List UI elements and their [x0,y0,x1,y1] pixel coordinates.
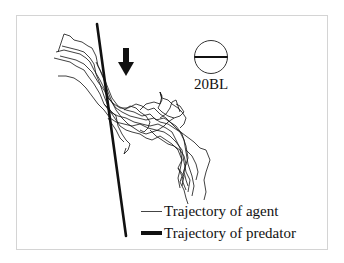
legend-label-predator: Trajectory of predator [164,225,296,242]
circle-with-diameter-icon [195,41,228,74]
arrow-down-icon [118,48,134,76]
scale-bar-label: 20BL [194,76,228,93]
thick-line-icon [141,231,162,235]
legend-label-agent: Trajectory of agent [164,203,278,220]
legend-item-predator: Trajectory of predator [141,222,296,244]
legend-item-agent: Trajectory of agent [141,200,296,222]
predator-trajectory [97,24,126,236]
thin-line-icon [141,211,162,212]
agent-trajectories [54,34,210,204]
legend: Trajectory of agent Trajectory of predat… [141,200,296,244]
